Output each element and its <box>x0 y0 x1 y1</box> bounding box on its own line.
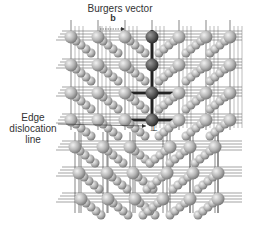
atom <box>65 59 78 72</box>
atom <box>173 87 186 100</box>
edge-label-line-2: dislocation <box>4 123 62 134</box>
atom <box>92 31 105 44</box>
edge-label-line-1: Edge <box>4 112 62 123</box>
atom <box>173 59 186 72</box>
atom <box>102 193 115 206</box>
atom <box>173 31 186 44</box>
atom <box>224 114 237 127</box>
atom <box>97 141 110 154</box>
atom <box>200 31 213 44</box>
extra-half-plane-atom <box>146 31 159 44</box>
extra-half-plane-atom <box>146 87 159 100</box>
atom <box>119 31 132 44</box>
atom <box>75 193 88 206</box>
atom <box>200 114 213 127</box>
atom <box>161 167 174 180</box>
atom <box>92 87 105 100</box>
atom <box>200 87 213 100</box>
atom <box>187 167 200 180</box>
burgers-vector-symbol: b <box>108 13 118 24</box>
atom <box>65 31 78 44</box>
atom <box>73 167 86 180</box>
atom <box>124 141 137 154</box>
edge-dislocation-line-label: Edge dislocation line <box>4 112 62 145</box>
atom <box>184 193 197 206</box>
atom <box>212 167 225 180</box>
atom <box>69 141 82 154</box>
atom <box>127 167 140 180</box>
atom <box>200 59 213 72</box>
atom <box>164 141 177 154</box>
atom <box>209 141 222 154</box>
atom <box>224 59 237 72</box>
burgers-vector-label: Burgers vector <box>80 3 160 14</box>
extra-half-plane-atom <box>146 59 159 72</box>
edge-label-line-3: line <box>4 134 62 145</box>
atom <box>119 114 132 127</box>
atom <box>224 87 237 100</box>
atom <box>157 193 170 206</box>
atom <box>184 141 197 154</box>
atom <box>129 193 142 206</box>
atom <box>119 59 132 72</box>
atom <box>173 114 186 127</box>
atom <box>65 87 78 100</box>
atom <box>119 87 132 100</box>
atom <box>224 31 237 44</box>
dislocation-symbol: ⊥ <box>150 123 158 133</box>
atom <box>92 59 105 72</box>
atom <box>212 193 225 206</box>
atom <box>101 167 114 180</box>
